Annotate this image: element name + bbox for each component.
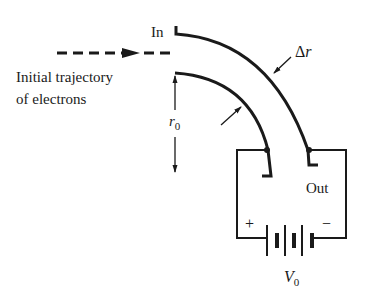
minus-label: − [322, 215, 331, 232]
in-label: In [151, 24, 164, 40]
electron-beam [57, 48, 176, 58]
beam-arrowhead-icon [122, 48, 140, 58]
trajectory-label-line2: of electrons [16, 91, 87, 107]
inner-plate-junction [264, 147, 270, 153]
battery-icon [267, 225, 312, 256]
delta-r-arrow [274, 57, 291, 73]
outer-plate-junction [306, 147, 312, 153]
trajectory-label-line1: Initial trajectory [16, 69, 114, 85]
v0-subscript: 0 [294, 276, 300, 288]
v0-label: V0 [284, 268, 300, 288]
inner-gap-arrow [221, 107, 241, 125]
delta-symbol: Δ [295, 43, 305, 60]
r0-label: r0 [169, 113, 181, 132]
out-label: Out [306, 180, 329, 196]
inner-plate [175, 73, 271, 176]
deflection-analyzer-diagram: In Δr Initial trajectory of electrons r0… [0, 0, 368, 301]
delta-r-variable: r [305, 43, 312, 60]
delta-r-label: Δr [295, 43, 312, 60]
r0-subscript: 0 [175, 120, 181, 132]
plus-label: + [245, 215, 254, 232]
